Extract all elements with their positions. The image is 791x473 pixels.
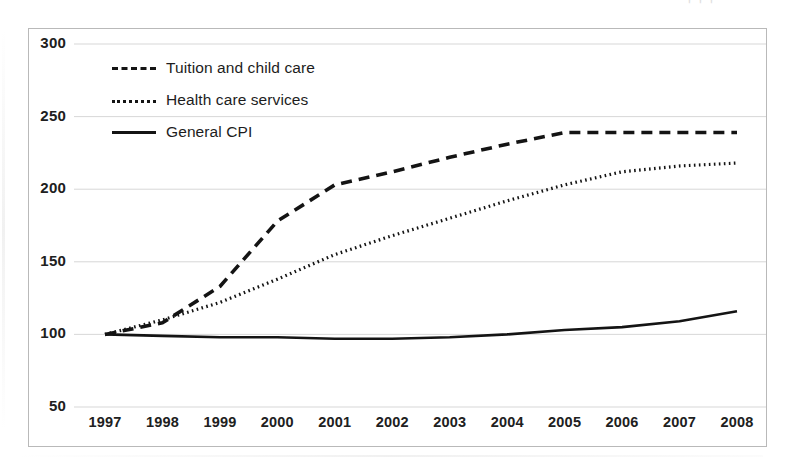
x-tick-label: 2004 — [479, 414, 535, 430]
legend-line-sample-dashed-icon — [112, 62, 156, 74]
x-tick-label: 1997 — [77, 414, 133, 430]
y-tick-label: 200 — [22, 179, 66, 196]
legend-item: General CPI — [112, 116, 412, 148]
x-tick-label: 2007 — [652, 414, 708, 430]
y-tick-label: 100 — [22, 324, 66, 341]
legend-line-sample-solid-icon — [112, 126, 156, 138]
x-tick-label: 2003 — [422, 414, 478, 430]
legend-item-label: General CPI — [166, 123, 252, 141]
series-line-tuition-and-child-care — [105, 133, 737, 335]
y-tick-label: 150 — [22, 252, 66, 269]
legend-item: Tuition and child care — [112, 52, 412, 84]
chart-figure: ' ' ' 50100150200250300 1997199819992000… — [0, 0, 791, 473]
x-tick-label: 2002 — [364, 414, 420, 430]
y-tick-label: 300 — [22, 34, 66, 51]
x-tick-label: 2005 — [537, 414, 593, 430]
x-tick-label: 2006 — [594, 414, 650, 430]
legend-item: Health care services — [112, 84, 412, 116]
y-tick-label: 50 — [22, 397, 66, 414]
x-tick-label: 2000 — [249, 414, 305, 430]
x-tick-label: 2008 — [709, 414, 765, 430]
legend-line-sample-dotted-icon — [112, 94, 156, 106]
legend-item-label: Tuition and child care — [166, 59, 315, 77]
x-tick-label: 1998 — [134, 414, 190, 430]
x-tick-label: 1999 — [192, 414, 248, 430]
x-tick-label: 2001 — [307, 414, 363, 430]
y-tick-label: 250 — [22, 107, 66, 124]
chart-legend: Tuition and child careHealth care servic… — [112, 52, 412, 148]
data-series-group — [105, 133, 737, 339]
legend-item-label: Health care services — [166, 91, 308, 109]
